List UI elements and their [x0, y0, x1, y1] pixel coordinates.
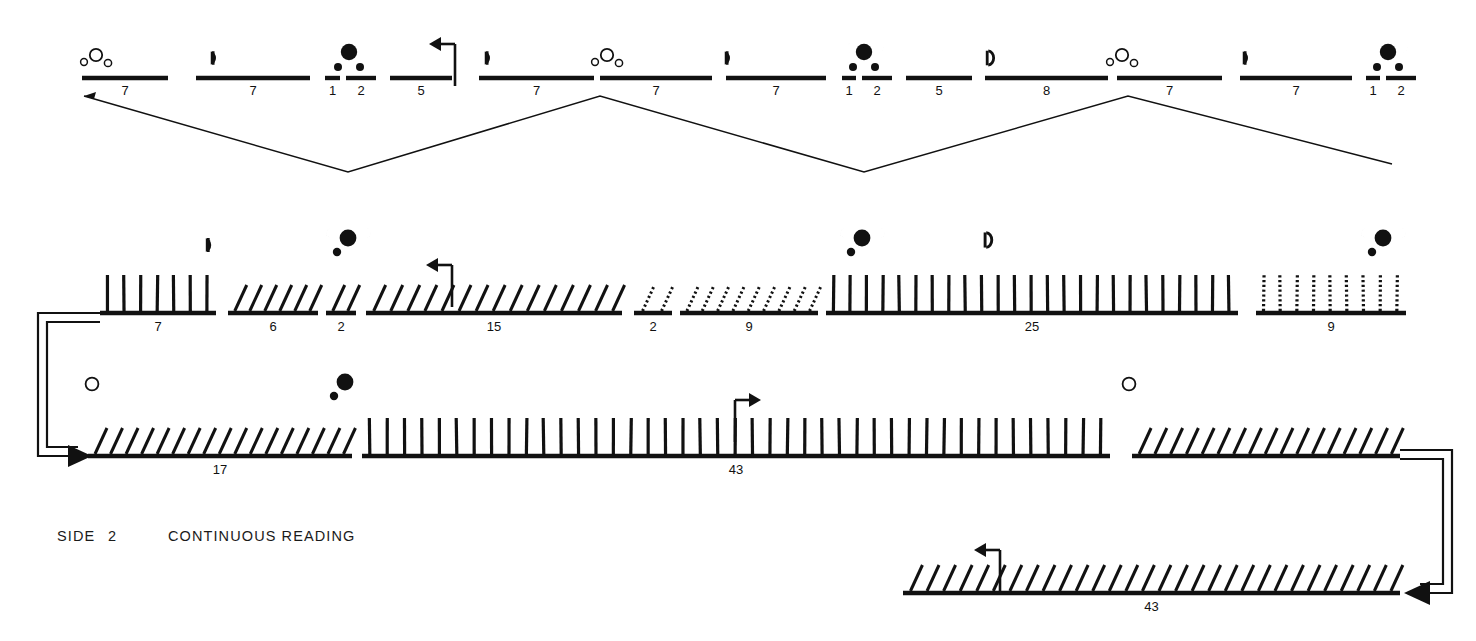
tally-tick — [718, 285, 730, 311]
tally-tick — [1360, 428, 1372, 454]
tally-tick — [476, 285, 488, 311]
tally-tick — [126, 428, 138, 454]
row-bottom-tally-row: 43 — [900, 528, 1403, 614]
tally-tick — [1275, 565, 1287, 591]
waning-crescent-icon — [845, 62, 850, 71]
waxing-crescent-icon — [363, 43, 368, 52]
tally-count: 6 — [269, 319, 276, 334]
waning-crescent-icon — [1361, 229, 1365, 238]
tally-tick — [1297, 428, 1309, 454]
new-moon-open-circle-icon — [1123, 378, 1136, 391]
tally-tick — [643, 285, 655, 311]
tally-tick — [1242, 565, 1254, 591]
flag-arrowhead — [974, 543, 986, 557]
wrap-left-arrowhead — [68, 445, 92, 467]
tally-tick — [944, 418, 945, 454]
tally-tick — [235, 285, 247, 311]
segment: 2 — [862, 78, 892, 98]
tally-tick — [687, 285, 699, 311]
tally-count: 9 — [745, 319, 752, 334]
tally-tick — [1010, 565, 1022, 591]
tally-tick — [281, 428, 293, 454]
expansion-guide-lines — [84, 96, 1392, 172]
tally-tick — [1258, 565, 1270, 591]
segment: 7 — [1117, 78, 1222, 98]
tally-tick — [1265, 428, 1277, 454]
full-moon-disc-icon — [1375, 230, 1392, 247]
new-moon-open-circle-icon — [1107, 59, 1114, 66]
tally-tick — [1209, 565, 1221, 591]
waning-crescent-icon — [326, 229, 330, 238]
full-moon-disc-icon — [330, 392, 338, 400]
tally-tick — [526, 418, 527, 454]
full-moon-disc-icon — [854, 230, 871, 247]
full-moon-disc-icon — [356, 63, 364, 71]
new-moon-open-circle-icon — [1130, 59, 1137, 66]
tally-tick — [1186, 428, 1198, 454]
tally-tick — [1176, 565, 1188, 591]
tally-tick — [787, 418, 788, 454]
tally-count: 2 — [649, 319, 656, 334]
wrap-right-bracket-inner — [1400, 459, 1443, 584]
full-moon-disc-icon — [1373, 63, 1381, 71]
tally-count: 17 — [213, 462, 227, 477]
segment-count: 5 — [417, 83, 424, 98]
tally-tick — [1328, 428, 1340, 454]
tally-tick — [926, 418, 927, 454]
tally-tick — [527, 285, 539, 311]
tally-group: 6 — [228, 285, 322, 334]
tally-tick — [1297, 275, 1298, 311]
segment-count: 7 — [121, 83, 128, 98]
tally-tick — [944, 565, 956, 591]
tally-diagram-svg: 77125777125877127621529259174343 — [0, 0, 1476, 641]
tally-tick — [1325, 565, 1337, 591]
connector-right-wrap — [1400, 450, 1452, 605]
turn-direction-marker[interactable] — [735, 393, 761, 442]
tally-group: 9 — [1256, 275, 1406, 334]
segment: 1 — [325, 78, 340, 98]
full-moon-disc-icon — [847, 248, 855, 256]
tally-tick — [1083, 418, 1084, 454]
tally-tick — [1026, 565, 1038, 591]
D-bowl — [986, 233, 992, 248]
tally-tick — [312, 428, 324, 454]
tally-count: 9 — [1327, 319, 1334, 334]
full-moon-disc-icon — [1368, 248, 1376, 256]
full-moon-cluster — [320, 43, 379, 71]
tally-tick — [1060, 565, 1072, 591]
tally-tick — [265, 285, 277, 311]
tally-group: 17 — [88, 428, 355, 477]
full-moon-disc-icon — [1395, 63, 1403, 71]
new-moon-cluster — [1107, 49, 1138, 67]
waxing-crescent-icon — [364, 373, 368, 382]
tally-tick — [733, 285, 745, 311]
tally-tick — [297, 428, 309, 454]
last-quarter-half-moon-icon — [211, 51, 216, 65]
waning-crescent-icon — [320, 43, 325, 52]
tally-tick — [1142, 565, 1154, 591]
tally-tick — [157, 275, 158, 311]
flag-arrowhead — [749, 393, 761, 407]
segment: 7 — [1240, 78, 1352, 98]
waxing-crescent-icon — [889, 43, 894, 52]
tally-tick — [333, 285, 345, 311]
caption-side-number: 2 — [108, 528, 117, 544]
new-moon-open-circle-icon — [1116, 49, 1128, 61]
segment: 5 — [906, 78, 972, 98]
tally-tick — [95, 428, 107, 454]
segment: 7 — [600, 78, 712, 98]
segment-count: 2 — [1397, 83, 1404, 98]
tally-tick — [408, 285, 420, 311]
tally-tick — [1218, 428, 1230, 454]
segment: 2 — [1386, 78, 1416, 98]
full-moon-disc-icon — [871, 63, 879, 71]
new-moon-cluster — [592, 49, 623, 67]
tally-tick — [764, 285, 776, 311]
tally-tick — [1313, 428, 1325, 454]
tally-tick — [631, 418, 632, 454]
tally-tick — [1308, 565, 1320, 591]
tally-group: 43 — [903, 565, 1403, 614]
waxing-crescent-icon — [367, 229, 371, 238]
tally-tick — [250, 285, 262, 311]
tally-tick — [544, 285, 556, 311]
